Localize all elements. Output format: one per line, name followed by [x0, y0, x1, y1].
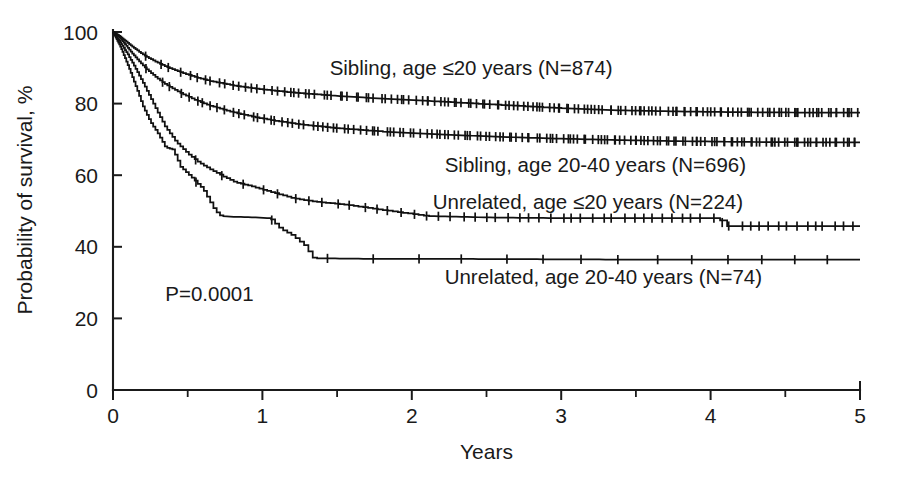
plot-canvas: 020406080100012345 P=0.0001 Sibling, age…: [0, 0, 897, 484]
x-tick-label-0: 0: [107, 404, 119, 427]
y-tick-label-40: 40: [75, 235, 98, 258]
x-axis-title-group: Years: [460, 440, 513, 463]
x-tick-label-2: 2: [406, 404, 418, 427]
series-label-3: Unrelated, age ≤20 years (N=224): [433, 190, 743, 213]
y-tick-label-60: 60: [75, 164, 98, 187]
y-tick-label-0: 0: [86, 379, 98, 402]
x-tick-label-3: 3: [555, 404, 567, 427]
x-axis-title: Years: [460, 440, 513, 463]
y-tick-label-100: 100: [63, 21, 98, 44]
annotations-group: P=0.0001: [165, 282, 253, 305]
tick-labels-group: 020406080100012345: [63, 21, 866, 428]
series-label-2: Sibling, age 20-40 years (N=696): [445, 153, 746, 176]
survival-chart-figure: Probability of survival, % 0204060801000…: [0, 0, 897, 484]
p-value-annotation: P=0.0001: [165, 282, 253, 305]
series-labels-group: Sibling, age ≤20 years (N=874)Sibling, a…: [330, 56, 762, 288]
y-tick-label-80: 80: [75, 92, 98, 115]
x-tick-label-1: 1: [257, 404, 269, 427]
x-tick-label-5: 5: [854, 404, 866, 427]
series-label-4: Unrelated, age 20-40 years (N=74): [445, 265, 762, 288]
x-tick-label-4: 4: [705, 404, 717, 427]
y-tick-label-20: 20: [75, 307, 98, 330]
series-label-1: Sibling, age ≤20 years (N=874): [330, 56, 613, 79]
